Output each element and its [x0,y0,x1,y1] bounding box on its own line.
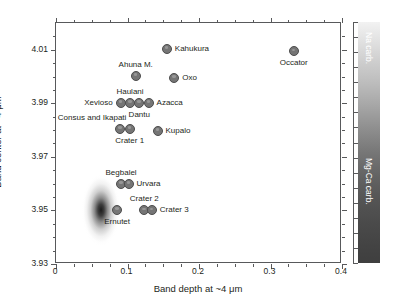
marker-highlight [156,128,160,131]
data-point[interactable] [125,124,135,134]
tick-mark [74,20,75,23]
data-point-label: Begbalel [105,169,136,177]
colorbar-tick [353,97,358,98]
marker-highlight [118,126,122,129]
tick-mark [51,50,56,51]
marker-highlight [115,207,119,210]
marker-highlight [134,73,138,76]
data-point[interactable] [169,73,179,83]
tick-mark [342,77,345,78]
colorbar-tick [353,127,358,128]
data-point[interactable] [289,46,299,56]
data-point-label: Crater 3 [160,206,189,214]
colorbar-tick [353,82,358,83]
tick-mark [92,264,93,267]
marker-highlight [119,100,123,103]
data-point[interactable] [144,98,154,108]
tick-mark [53,197,56,198]
marker-highlight [165,46,169,49]
tick-mark [53,237,56,238]
tick-mark [53,143,56,144]
tick-mark [199,18,200,23]
tick-mark [53,251,56,252]
marker-highlight [128,126,132,129]
tick-mark [51,157,56,158]
tick-mark [342,224,345,225]
tick-mark [53,224,56,225]
colorbar-top-label: Na carb. [364,32,374,64]
x-tick-label: 0.4 [335,266,347,276]
data-point[interactable] [162,44,172,54]
tick-mark [342,103,347,104]
data-point-label: Crater 1 [115,137,144,145]
data-point-label: Crater 2 [130,195,159,203]
tick-mark [181,264,182,267]
tick-mark [342,50,347,51]
tick-mark [145,264,146,267]
tick-mark [56,18,57,23]
x-tick-label: 0.3 [264,266,276,276]
colorbar-bottom-label: Mg-Ca carb. [364,158,374,205]
tick-mark [53,90,56,91]
tick-mark [145,20,146,23]
tick-mark [51,210,56,211]
tick-mark [53,77,56,78]
tick-mark [74,264,75,267]
x-axis-title: Band depth at ~4 μm [154,283,243,294]
colorbar-tick [353,173,358,174]
marker-highlight [147,100,151,103]
marker-highlight [292,49,296,52]
tick-mark [92,20,93,23]
colorbar-tick [353,112,358,113]
tick-mark [342,210,347,211]
tick-mark [342,63,345,64]
colorbar-tick [353,143,358,144]
marker-highlight [172,75,176,78]
x-tick-label: 0.2 [192,266,204,276]
tick-mark [288,20,289,23]
data-point[interactable] [112,205,122,215]
data-point[interactable] [147,205,157,215]
tick-mark [342,251,345,252]
tick-mark [342,157,347,158]
tick-mark [51,103,56,104]
data-point[interactable] [131,71,141,81]
colorbar-tick [353,248,358,249]
x-tick-label: 0.1 [121,266,133,276]
marker-highlight [142,208,146,211]
marker-highlight [119,181,123,184]
colorbar-tick [353,233,358,234]
data-point[interactable] [124,179,134,189]
tick-mark [324,264,325,267]
tick-mark [163,20,164,23]
marker-highlight [150,208,154,211]
tick-mark [53,170,56,171]
tick-mark [53,63,56,64]
colorbar-tick [353,37,358,38]
colorbar-tick [353,52,358,53]
tick-mark [342,90,345,91]
data-point-label: Occator [280,59,308,67]
data-point-label: Kahukura [175,45,209,53]
data-point-label: Ahuna M. [119,61,153,69]
tick-mark [342,130,345,131]
colorbar-tick [353,203,358,204]
tick-mark [342,36,345,37]
tick-mark [235,264,236,267]
tick-mark [342,117,345,118]
tick-mark [235,20,236,23]
tick-mark [342,237,345,238]
tick-mark [288,264,289,267]
tick-mark [342,264,347,265]
data-point-label: Oxo [182,74,197,82]
tick-mark [342,18,343,23]
tick-mark [53,36,56,37]
tick-mark [110,264,111,267]
y-axis-title: Band center at ~4 μm [0,96,3,187]
data-point-label: Ernutet [104,218,130,226]
tick-mark [342,170,345,171]
colorbar-tick [353,218,358,219]
data-point-label: Kupalo [166,127,191,135]
data-point[interactable] [153,126,163,136]
data-point-label: Azacca [157,99,183,107]
